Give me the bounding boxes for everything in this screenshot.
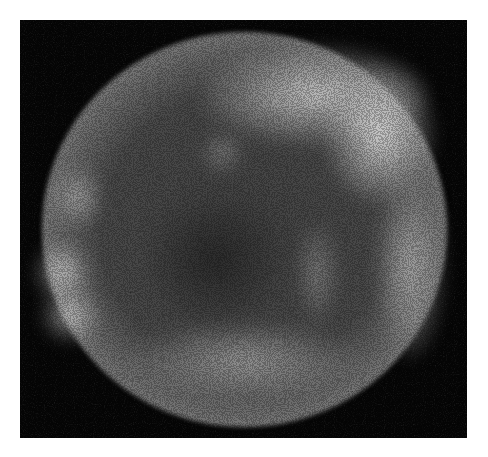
astronomical-image	[20, 20, 467, 438]
grain-overlay	[20, 20, 467, 438]
page	[0, 0, 488, 457]
